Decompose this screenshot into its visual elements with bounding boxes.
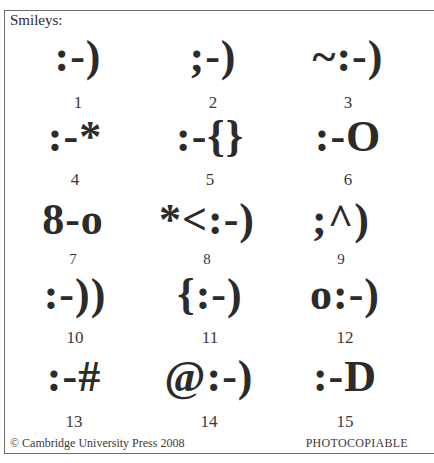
smiley-number: 15 — [280, 413, 410, 430]
smiley-symbol: o:-) — [280, 273, 410, 317]
smiley-item-9: ;^) 9 — [276, 198, 406, 267]
smiley-number: 11 — [145, 329, 275, 346]
smiley-number: 12 — [280, 329, 410, 346]
smiley-number: 6 — [283, 171, 413, 188]
smiley-number: 14 — [144, 413, 274, 430]
smiley-item-3: ~:-) 3 — [283, 35, 413, 111]
smiley-symbol: :-)) — [10, 273, 140, 317]
smiley-symbol: :-* — [10, 115, 140, 159]
smiley-number: 7 — [8, 252, 138, 267]
smiley-symbol: :-O — [283, 115, 413, 159]
smiley-item-10: :-)) 10 — [10, 273, 140, 346]
smiley-symbol: 8-o — [8, 198, 138, 242]
smiley-number: 3 — [283, 94, 413, 111]
smiley-number: 9 — [276, 252, 406, 267]
smiley-symbol: {:-) — [145, 273, 275, 317]
smiley-item-1: :-) 1 — [13, 35, 143, 111]
smiley-symbol: @:-) — [144, 355, 274, 399]
smiley-item-13: :-# 13 — [9, 355, 139, 430]
smiley-item-6: :-O 6 — [283, 115, 413, 188]
smiley-symbol: :-# — [9, 355, 139, 399]
smiley-symbol: :-{} — [145, 115, 275, 159]
smiley-item-12: o:-) 12 — [280, 273, 410, 346]
smiley-item-8: *<:-) 8 — [142, 198, 272, 267]
smiley-item-4: :-* 4 — [10, 115, 140, 188]
smiley-item-15: :-D 15 — [280, 355, 410, 430]
smiley-symbol: ~:-) — [283, 35, 413, 79]
smiley-symbol: ;-) — [148, 35, 278, 79]
smiley-item-7: 8-o 7 — [8, 198, 138, 267]
smiley-number: 13 — [9, 413, 139, 430]
smiley-number: 8 — [142, 252, 272, 267]
photocopiable-notice: PHOTOCOPIABLE — [306, 436, 408, 451]
smiley-number: 1 — [13, 94, 143, 111]
copyright-notice: © Cambridge University Press 2008 — [10, 436, 184, 451]
smiley-number: 10 — [10, 329, 140, 346]
smiley-symbol: *<:-) — [142, 198, 272, 242]
smiley-number: 5 — [145, 171, 275, 188]
smiley-item-5: :-{} 5 — [145, 115, 275, 188]
smiley-symbol: :-D — [280, 355, 410, 399]
box-title: Smileys: — [10, 12, 63, 29]
smiley-item-11: {:-) 11 — [145, 273, 275, 346]
smiley-number: 4 — [10, 171, 140, 188]
smiley-number: 2 — [148, 94, 278, 111]
smiley-symbol: ;^) — [276, 198, 406, 242]
smiley-symbol: :-) — [13, 35, 143, 79]
smiley-item-14: @:-) 14 — [144, 355, 274, 430]
smiley-item-2: ;-) 2 — [148, 35, 278, 111]
